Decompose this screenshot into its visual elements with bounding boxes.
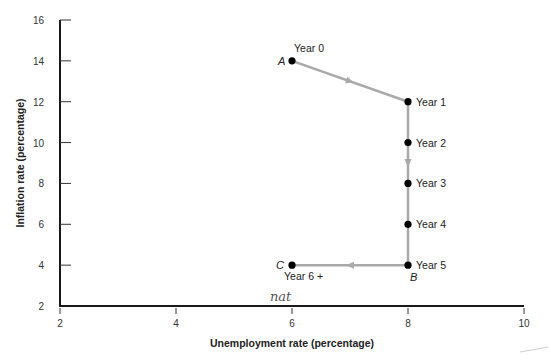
point-letter-label: C: [276, 259, 284, 271]
y-tick-label: 2: [38, 301, 44, 312]
point-label: Year 4: [416, 218, 446, 230]
direction-arrow: [346, 262, 354, 269]
data-point: [404, 221, 411, 228]
data-point: [404, 262, 411, 269]
point-label: Year 6 +: [284, 270, 323, 282]
y-tick-label: 6: [38, 219, 44, 230]
y-tick-label: 10: [33, 138, 45, 149]
x-tick-label: 6: [289, 318, 295, 329]
data-point: [404, 139, 411, 146]
x-tick-label: 8: [405, 318, 411, 329]
y-tick-label: 4: [38, 260, 44, 271]
phillips-curve-chart: 246810121416246810 Year 0AYear 1Year 2Ye…: [0, 0, 551, 364]
direction-arrow: [405, 159, 412, 167]
y-tick-label: 8: [38, 178, 44, 189]
x-tick-label: 4: [173, 318, 179, 329]
data-points: Year 0AYear 1Year 2Year 3Year 4Year 5BYe…: [276, 42, 446, 283]
point-letter-label: A: [277, 55, 285, 67]
data-point: [288, 262, 295, 269]
data-point: [404, 180, 411, 187]
direction-arrow: [345, 77, 354, 84]
y-axis-title: Inflation rate (percentage): [14, 99, 26, 228]
point-letter-label: B: [410, 271, 417, 283]
x-tick-label: 2: [57, 318, 63, 329]
x-axis-title: Unemployment rate (percentage): [210, 337, 374, 349]
series-path: [292, 61, 412, 269]
point-label: Year 0: [294, 42, 324, 54]
data-point: [288, 57, 295, 64]
data-point: [404, 98, 411, 105]
y-tick-label: 12: [33, 97, 45, 108]
y-tick-label: 14: [33, 56, 45, 67]
handwritten-annotation: nat: [270, 289, 292, 304]
x-tick-label: 10: [518, 318, 530, 329]
point-label: Year 2: [416, 137, 446, 149]
y-tick-label: 16: [33, 15, 45, 26]
point-label: Year 5: [416, 259, 446, 271]
point-label: Year 1: [416, 96, 446, 108]
point-label: Year 3: [416, 177, 446, 189]
stray-mark: [520, 347, 548, 352]
